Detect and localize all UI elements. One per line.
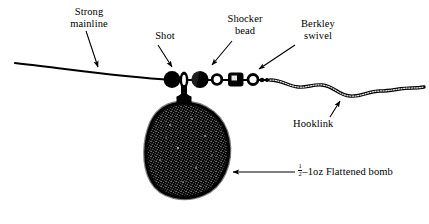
flattened-bomb [146, 86, 229, 198]
label-strong-mainline-line2: mainline [58, 18, 120, 30]
leader-berkley-swivel [259, 45, 295, 69]
leader-shocker-bead [212, 41, 232, 65]
leader-strong-mainline [86, 31, 98, 67]
label-shocker-bead-line2: bead [216, 25, 274, 37]
label-strong-mainline-line1: Strong [58, 6, 120, 18]
lead-loop-component [180, 71, 189, 88]
label-flattened-bomb: 12–1oz Flattened bomb [298, 163, 423, 177]
hooklink-line [270, 80, 424, 96]
label-hooklink: Hooklink [293, 118, 349, 130]
label-shot: Shot [148, 30, 182, 42]
leader-hooklink [330, 101, 340, 117]
white-ring-1-component [211, 73, 223, 85]
berkley-swivel-component [228, 73, 244, 87]
bomb-weight-text: –1oz Flattened bomb [302, 166, 393, 177]
label-berkley-swivel-line2: swivel [290, 30, 346, 42]
shocker-bead-component [191, 71, 208, 88]
label-shocker-bead: Shocker bead [216, 13, 274, 36]
fishing-rig-diagram [0, 0, 429, 224]
label-berkley-swivel: Berkley swivel [290, 18, 346, 41]
white-ring-2-component [247, 73, 260, 86]
leader-shot [158, 45, 172, 67]
rig-diagram-page: Strong mainline Shot Shocker bead Berkle… [0, 0, 429, 224]
label-berkley-swivel-line1: Berkley [290, 18, 346, 30]
label-shocker-bead-line1: Shocker [216, 13, 274, 25]
shot-component [164, 71, 181, 88]
mainline [15, 63, 172, 80]
label-strong-mainline: Strong mainline [58, 6, 120, 29]
